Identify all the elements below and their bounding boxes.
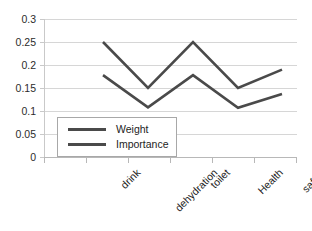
legend-label-importance: Importance bbox=[116, 139, 169, 150]
legend-item-weight: Weight bbox=[64, 122, 170, 137]
series-line-importance bbox=[103, 42, 282, 88]
series-container bbox=[0, 0, 312, 231]
legend-label-weight: Weight bbox=[116, 124, 149, 135]
legend-swatch-weight bbox=[68, 128, 106, 131]
legend: Weight Importance bbox=[57, 117, 177, 157]
legend-item-importance: Importance bbox=[64, 137, 170, 152]
line-chart: 0.3 0.25 0.2 0.15 0.1 0.05 0 drink dehyd… bbox=[0, 0, 312, 231]
legend-swatch-importance bbox=[68, 143, 106, 146]
